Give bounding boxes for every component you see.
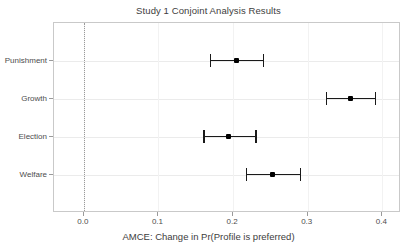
y-tick-label-welfare: Welfare [20, 170, 47, 179]
confidence-interval-cap-lower [210, 54, 211, 67]
point-estimate-marker [226, 134, 231, 139]
x-tick-label: 0.4 [376, 217, 387, 226]
confidence-interval-cap-lower [203, 130, 204, 143]
confidence-interval-cap-upper [375, 92, 376, 105]
y-tick-mark [49, 174, 53, 175]
plot-panel [53, 22, 400, 212]
estimate-row [54, 54, 400, 68]
x-tick-mark [232, 212, 233, 216]
zero-reference-line [84, 23, 85, 211]
x-tick-mark [157, 212, 158, 216]
y-tick-mark [49, 60, 53, 61]
gridline-vertical [233, 23, 234, 211]
chart-title: Study 1 Conjoint Analysis Results [0, 5, 417, 16]
y-tick-mark [49, 136, 53, 137]
confidence-interval-cap-lower [246, 168, 247, 181]
y-axis: PunishmentGrowthElectionWelfare [0, 0, 47, 251]
estimate-row [54, 130, 400, 144]
confidence-interval-cap-lower [326, 92, 327, 105]
x-tick-mark [83, 212, 84, 216]
estimate-row [54, 168, 400, 182]
gridline-vertical [158, 23, 159, 211]
x-axis-title: AMCE: Change in Pr(Profile is preferred) [0, 231, 417, 242]
x-tick-mark [381, 212, 382, 216]
x-tick-label: 0.2 [227, 217, 238, 226]
confidence-interval-cap-upper [255, 130, 256, 143]
y-tick-mark [49, 98, 53, 99]
estimate-row [54, 92, 400, 106]
point-estimate-marker [234, 58, 239, 63]
y-tick-label-growth: Growth [21, 94, 47, 103]
y-tick-label-election: Election [19, 132, 47, 141]
confidence-interval-cap-upper [300, 168, 301, 181]
confidence-interval-cap-upper [263, 54, 264, 67]
y-tick-label-punishment: Punishment [5, 56, 47, 65]
x-tick-label: 0.0 [77, 217, 88, 226]
x-tick-label: 0.3 [301, 217, 312, 226]
x-tick-label: 0.1 [152, 217, 163, 226]
gridline-vertical [308, 23, 309, 211]
x-tick-mark [307, 212, 308, 216]
point-estimate-marker [348, 96, 353, 101]
conjoint-amce-chart: Study 1 Conjoint Analysis Results Punish… [0, 0, 417, 251]
gridline-vertical [382, 23, 383, 211]
point-estimate-marker [270, 172, 275, 177]
